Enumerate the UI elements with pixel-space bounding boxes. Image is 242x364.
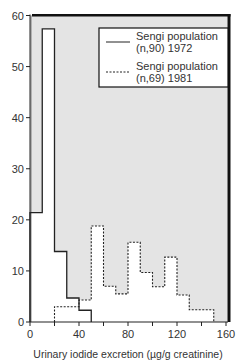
legend: Sengi population (n,90) 1972 Sengi popul… (99, 28, 228, 87)
x-axis-title: Urinary iodide excretion (µg/g creatinin… (33, 348, 222, 360)
y-tick-label: 10 (12, 265, 24, 277)
histogram-chart: 010203040506004080120160 Sengi populatio… (0, 0, 242, 364)
x-tick-label: 40 (73, 328, 85, 340)
y-tick-label: 40 (12, 112, 24, 124)
x-tick-label: 0 (27, 328, 33, 340)
y-tick-label: 60 (12, 10, 24, 22)
legend-1972-line1: Sengi population (136, 30, 218, 42)
y-tick-label: 50 (12, 61, 24, 73)
x-tick-label: 80 (122, 328, 134, 340)
x-tick-label: 120 (168, 328, 186, 340)
y-tick-label: 30 (12, 163, 24, 175)
x-tick-label: 160 (217, 328, 235, 340)
y-tick-label: 20 (12, 214, 24, 226)
legend-1981-line1: Sengi population (136, 60, 218, 72)
legend-1972-line2: (n,90) 1972 (136, 42, 192, 54)
y-tick-label: 0 (18, 316, 24, 328)
legend-1981-line2: (n,69) 1981 (136, 72, 192, 84)
